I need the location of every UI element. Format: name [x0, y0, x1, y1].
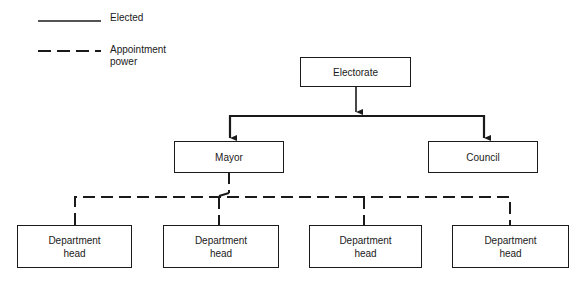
dept-label-line1: Department [484, 234, 536, 247]
mayor-node: Mayor [174, 141, 284, 173]
dept-label-line1: Department [195, 234, 247, 247]
legend-elected-label: Elected [110, 12, 143, 24]
legend-appointment-line2: power [110, 56, 166, 68]
electorate-node: Electorate [300, 57, 411, 87]
council-node: Council [428, 141, 538, 173]
council-label: Council [466, 151, 499, 164]
legend-appointment-label: Appointment power [110, 44, 166, 68]
elected-connectors [230, 86, 484, 138]
legend-appointment-line1: Appointment [110, 44, 166, 56]
dept-label-line2: head [48, 247, 100, 260]
department-head-node-4: Departmenthead [452, 225, 569, 268]
dept-label-line2: head [195, 247, 247, 260]
department-head-node-2: Departmenthead [163, 225, 279, 268]
dept-label-line1: Department [48, 234, 100, 247]
dept-label-line2: head [484, 247, 536, 260]
dept-label-line2: head [339, 247, 391, 260]
department-head-node-1: Departmenthead [17, 225, 132, 268]
dept-label-line1: Department [339, 234, 391, 247]
department-head-node-3: Departmenthead [309, 225, 422, 268]
appointment-connectors [75, 172, 510, 225]
electorate-label: Electorate [333, 66, 378, 79]
mayor-label: Mayor [215, 151, 243, 164]
